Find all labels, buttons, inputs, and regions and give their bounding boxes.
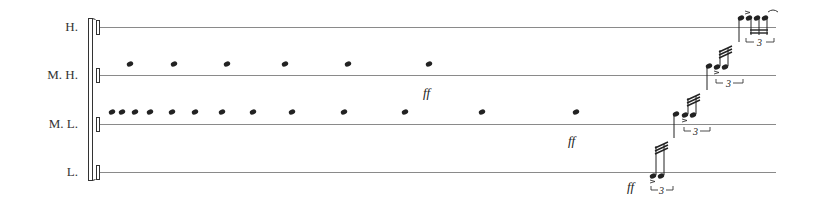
- tuplet-number: 3: [756, 37, 762, 48]
- note-head: [146, 109, 154, 116]
- note-head: [223, 61, 231, 68]
- clef-rect-icon: [97, 166, 100, 180]
- system-bracket: [89, 19, 96, 181]
- mid-low-notes: [108, 109, 580, 116]
- note-head: [168, 109, 176, 116]
- note-head: [281, 61, 289, 68]
- note-head: [425, 61, 433, 68]
- dynamic-marking: ff: [568, 133, 578, 148]
- note-head: [118, 109, 126, 116]
- dynamic-marking: ff: [627, 179, 637, 194]
- tuplet-number: 3: [725, 78, 731, 89]
- note-head: [218, 109, 226, 116]
- note-head: [170, 61, 178, 68]
- note-head: [249, 109, 257, 116]
- note-head: [131, 109, 139, 116]
- note-head: [126, 61, 134, 68]
- clef-rect-icon: [97, 118, 100, 132]
- note-head: [288, 109, 296, 116]
- mid-high-notes: [126, 61, 433, 68]
- tuplet-group-4: 3: [745, 10, 778, 48]
- dynamic-marking: ff: [423, 85, 433, 100]
- clef-rect-icon: [97, 69, 100, 83]
- note-head: [478, 109, 486, 116]
- note-head: [401, 109, 409, 116]
- note-head: [108, 109, 116, 116]
- tuplet-group-3: 3: [713, 46, 743, 89]
- tuplet-number: 3: [692, 126, 698, 137]
- clef-rect-icon: [97, 21, 100, 35]
- percussion-clefs: [97, 21, 100, 180]
- tuplet-group-2: 3: [681, 94, 710, 137]
- music-score: H. M. H. M. L. L. ff ff ff: [0, 0, 817, 205]
- note-head: [572, 109, 580, 116]
- tuplet-number: 3: [658, 185, 664, 196]
- note-head: [340, 109, 348, 116]
- staff-label-mid-low: M. L.: [49, 116, 78, 131]
- note-head: [191, 109, 199, 116]
- tuplet-group-1: 3: [649, 142, 673, 196]
- ascending-run: 3 3 3: [649, 10, 778, 196]
- staff-label-low: L.: [67, 164, 78, 179]
- staff-lines: [100, 28, 776, 173]
- staff-label-high: H.: [65, 19, 78, 34]
- note-head: [344, 61, 352, 68]
- staff-label-mid-high: M. H.: [47, 67, 78, 82]
